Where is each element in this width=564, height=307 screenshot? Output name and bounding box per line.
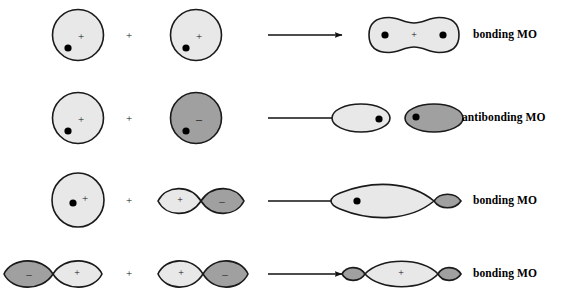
- row-2-product-nucleus-right: [412, 113, 419, 120]
- row-3-result-label: bonding MO: [473, 194, 537, 206]
- row-3-product-nucleus: [353, 197, 360, 204]
- row-3-reactant-1-s-orbital: +: [52, 173, 104, 227]
- row-2-reactant-1-s-orbital: +: [53, 93, 104, 144]
- row-4-reactant-2-p-orbital: + –: [158, 261, 248, 287]
- row-2-reactant-2-sign: –: [195, 112, 203, 126]
- row-1-reactant-2-nucleus: [182, 44, 189, 51]
- row-4-operator: +: [126, 267, 132, 279]
- row-2-operator: +: [126, 112, 132, 124]
- row-2-reactant-1-nucleus: [64, 127, 71, 134]
- row-2-product-nucleus-left: [375, 115, 382, 122]
- row-1-reactant-1-sign: +: [78, 30, 84, 42]
- row-2-group: + + –: [53, 93, 464, 144]
- row-4-reactant-2-sign-right: –: [221, 268, 228, 280]
- row-4-product-sign: +: [398, 267, 404, 278]
- row-3-reactant-2-sign-left: +: [177, 194, 183, 205]
- row-1-reactant-1-s-orbital: +: [53, 10, 104, 61]
- row-1-result-label: bonding MO: [473, 28, 537, 40]
- row-2-reactant-1-sign: +: [78, 113, 84, 125]
- row-1-reactant-2-s-orbital: +: [171, 10, 222, 61]
- row-1-group: + + + +: [53, 10, 460, 61]
- row-1-reactant-1-nucleus: [64, 44, 71, 51]
- row-2-reactant-2-nucleus: [182, 127, 189, 134]
- row-3-reactant-2-p-orbital: + –: [158, 189, 244, 214]
- row-3-reactant-2-sign-right: –: [218, 195, 225, 207]
- row-2-product-antibonding-mo: [332, 104, 463, 132]
- row-3-product-lobe-large: [331, 184, 434, 217]
- row-4-product-lobe-small-right: [438, 268, 461, 281]
- row-2-result-label: antibonding MO: [462, 111, 546, 123]
- orbital-diagram-canvas: + + + + + +: [0, 0, 564, 307]
- row-4-result-label: bonding MO: [473, 267, 537, 279]
- row-1-product-sign: +: [411, 29, 417, 40]
- row-1-product-nucleus-right: [439, 31, 446, 38]
- mo-combination-diagram: + + + + + +: [0, 0, 564, 307]
- row-3-operator: +: [126, 194, 132, 206]
- row-4-product-lobe-small-left: [342, 268, 365, 281]
- row-3-reactant-1-nucleus: [69, 199, 76, 206]
- row-4-group: – + + + – +: [4, 261, 461, 287]
- row-1-operator: +: [126, 29, 132, 41]
- row-4-product-bonding-mo: +: [342, 261, 461, 287]
- row-4-reactant-1-sign-right: +: [74, 267, 80, 278]
- row-3-product-bonding-mo: [331, 184, 461, 217]
- row-3-group: + + + –: [52, 173, 461, 227]
- row-3-reactant-1-sign: +: [82, 192, 88, 204]
- row-4-reactant-1-p-orbital: – +: [4, 261, 102, 287]
- row-4-reactant-2-sign-left: +: [178, 267, 184, 278]
- row-1-reactant-2-sign: +: [196, 30, 202, 42]
- row-1-product-nucleus-left: [381, 31, 388, 38]
- row-4-reactant-1-sign-left: –: [25, 268, 32, 280]
- row-3-product-lobe-small: [434, 194, 461, 208]
- row-1-product-bonding-mo: +: [369, 18, 459, 53]
- row-2-reactant-2-s-orbital: –: [171, 93, 222, 144]
